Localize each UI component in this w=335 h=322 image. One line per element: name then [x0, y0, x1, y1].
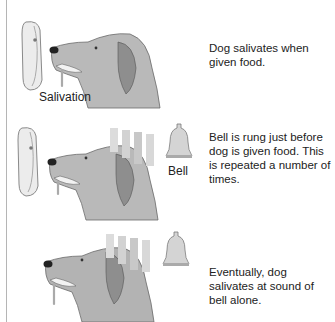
panel-1-caption: Dog salivates when given food. [209, 41, 333, 69]
sound-waves-icon [108, 122, 158, 168]
sound-waves-icon [104, 228, 154, 274]
salivation-label: Salivation [39, 90, 91, 104]
panel-3-caption: Eventually, dog salivates at sound of be… [209, 265, 333, 307]
bell-icon [163, 232, 189, 268]
panel-bell-alone: Eventually, dog salivates at sound of be… [0, 214, 335, 322]
panel-2-caption: Bell is rung just before dog is given fo… [209, 130, 333, 186]
bell-label: Bell [168, 164, 188, 178]
panel-bell-and-food: Bell Bell is rung just before dog is giv… [0, 110, 335, 214]
panel-food: Salivation Dog salivates when given food… [0, 0, 335, 108]
bell-icon [166, 124, 192, 160]
food-meat-icon [20, 20, 44, 92]
food-meat-icon [16, 126, 40, 198]
